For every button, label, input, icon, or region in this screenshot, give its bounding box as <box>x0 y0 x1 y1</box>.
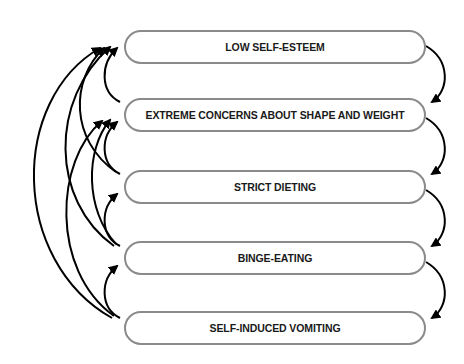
node-label: SELF-INDUCED VOMITING <box>210 322 341 334</box>
arrow-n5-to-n1 <box>34 48 112 318</box>
node-label: BINGE-EATING <box>238 252 312 264</box>
arrow-n1-to-n2 <box>426 46 445 102</box>
node-label: STRICT DIETING <box>234 181 316 193</box>
node-label: EXTREME CONCERNS ABOUT SHAPE AND WEIGHT <box>145 109 404 121</box>
arrow-n2-to-n1 <box>105 48 120 102</box>
node-low-self-esteem: LOW SELF-ESTEEM <box>124 30 426 64</box>
node-binge-eating: BINGE-EATING <box>124 241 426 275</box>
node-extreme-concerns: EXTREME CONCERNS ABOUT SHAPE AND WEIGHT <box>124 98 426 132</box>
arrow-n3-to-n2 <box>105 122 120 174</box>
arrow-n4-to-n1 <box>65 47 114 246</box>
node-label: LOW SELF-ESTEEM <box>225 41 324 53</box>
arrow-n3-to-n1 <box>80 48 116 172</box>
arrow-n4-to-n2 <box>92 120 116 244</box>
node-self-induced-vomiting: SELF-INDUCED VOMITING <box>124 311 426 345</box>
arrow-n3-to-n4 <box>426 190 445 246</box>
arrow-n2-to-n3 <box>426 118 445 174</box>
arrow-n4-to-n5 <box>426 262 445 318</box>
node-strict-dieting: STRICT DIETING <box>124 170 426 204</box>
